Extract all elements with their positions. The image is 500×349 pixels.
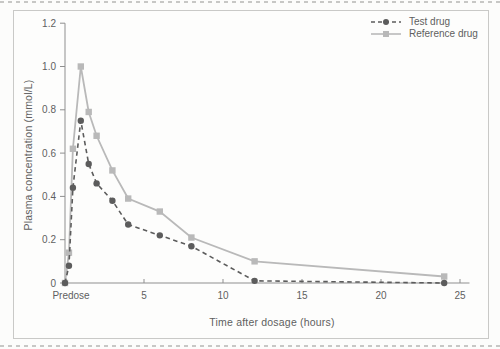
x-tick-label-predose: Predose [52, 290, 90, 301]
test-drug-data-point [188, 243, 194, 249]
test-drug-data-point [93, 180, 99, 186]
test-drug-data-point [70, 185, 76, 191]
test-drug-data-point [157, 232, 163, 238]
reference-drug-data-point [157, 208, 163, 214]
x-tick-label: 20 [375, 290, 387, 301]
legend-label-reference-drug: Reference drug [409, 28, 481, 39]
x-tick-label: 15 [296, 290, 308, 301]
reference-drug-sample-marker [383, 31, 389, 37]
legend: Test drug Reference drug [371, 16, 481, 39]
reference-drug-data-point [188, 234, 194, 240]
figure-page: 00.20.40.60.81.01.2510152025Predose Plas… [0, 0, 500, 349]
test-drug-sample-marker [383, 19, 389, 25]
reference-drug-data-point [125, 195, 131, 201]
test-drug-data-point [251, 278, 257, 284]
reference-drug-data-point [78, 63, 84, 69]
legend-item-reference-drug: Reference drug [371, 28, 481, 39]
test-drug-data-point [441, 280, 447, 286]
x-tick-label: 10 [217, 290, 229, 301]
x-tick-label: 5 [141, 290, 147, 301]
reference-drug-data-point [93, 133, 99, 139]
y-tick-label: 0.8 [42, 104, 56, 115]
reference-drug-data-point [441, 273, 447, 279]
y-axis-title: Plasma concentration (mmol/L) [22, 79, 34, 230]
test-drug-data-point [62, 280, 68, 286]
test-drug-data-point [78, 117, 84, 123]
test-drug-line-sample-icon [371, 17, 401, 27]
y-tick-label: 1.0 [42, 61, 56, 72]
reference-drug-data-point [109, 167, 115, 173]
y-tick-label: 0.2 [42, 234, 56, 245]
pk-concentration-line-chart: 00.20.40.60.81.01.2510152025Predose [0, 0, 500, 349]
legend-item-test-drug: Test drug [371, 16, 481, 27]
test-drug-data-point [125, 221, 131, 227]
reference-drug-curve [65, 67, 444, 284]
reference-drug-data-point [251, 258, 257, 264]
reference-drug-line-sample-icon [371, 29, 401, 39]
y-tick-label: 0 [50, 278, 56, 289]
y-tick-label: 1.2 [42, 18, 56, 29]
test-drug-data-point [86, 161, 92, 167]
x-axis-title: Time after dosage (hours) [209, 316, 334, 328]
legend-label-test-drug: Test drug [409, 16, 481, 27]
reference-drug-data-point [86, 109, 92, 115]
test-drug-data-point [66, 262, 72, 268]
test-drug-data-point [109, 198, 115, 204]
y-tick-label: 0.4 [42, 191, 56, 202]
y-tick-label: 0.6 [42, 148, 56, 159]
reference-drug-data-point [70, 146, 76, 152]
x-tick-label: 25 [454, 290, 466, 301]
